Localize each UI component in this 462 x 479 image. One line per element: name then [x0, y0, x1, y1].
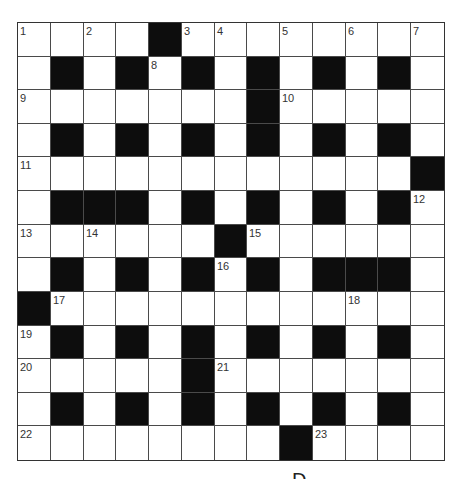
- grid-cell[interactable]: [313, 157, 346, 191]
- grid-cell[interactable]: 21: [215, 359, 247, 393]
- grid-cell[interactable]: [215, 326, 247, 359]
- grid-cell[interactable]: [149, 292, 182, 326]
- grid-cell[interactable]: [411, 258, 444, 292]
- grid-cell[interactable]: 10: [280, 90, 313, 124]
- grid-cell[interactable]: [280, 191, 313, 225]
- grid-cell[interactable]: [411, 393, 444, 426]
- grid-cell[interactable]: [411, 326, 444, 359]
- grid-cell[interactable]: [149, 157, 182, 191]
- grid-cell[interactable]: 20: [18, 359, 51, 393]
- grid-cell[interactable]: [280, 292, 313, 326]
- grid-cell[interactable]: [411, 90, 444, 124]
- grid-cell[interactable]: [313, 359, 346, 393]
- grid-cell[interactable]: 12: [411, 191, 444, 225]
- grid-cell[interactable]: [215, 57, 247, 90]
- grid-cell[interactable]: [51, 225, 84, 258]
- grid-cell[interactable]: [280, 57, 313, 90]
- grid-cell[interactable]: [378, 426, 411, 460]
- grid-cell[interactable]: [346, 426, 378, 460]
- grid-cell[interactable]: [149, 258, 182, 292]
- grid-cell[interactable]: 15: [247, 225, 280, 258]
- grid-cell[interactable]: 18: [346, 292, 378, 326]
- grid-cell[interactable]: 17: [51, 292, 84, 326]
- grid-cell[interactable]: [182, 426, 215, 460]
- grid-cell[interactable]: [280, 258, 313, 292]
- grid-cell[interactable]: [84, 393, 116, 426]
- grid-cell[interactable]: 7: [411, 23, 444, 57]
- grid-cell[interactable]: [411, 292, 444, 326]
- grid-cell[interactable]: 1: [18, 23, 51, 57]
- grid-cell[interactable]: [116, 225, 149, 258]
- grid-cell[interactable]: [149, 124, 182, 157]
- grid-cell[interactable]: [149, 326, 182, 359]
- grid-cell[interactable]: [149, 393, 182, 426]
- grid-cell[interactable]: [346, 90, 378, 124]
- grid-cell[interactable]: [215, 393, 247, 426]
- grid-cell[interactable]: 2: [84, 23, 116, 57]
- grid-cell[interactable]: 5: [280, 23, 313, 57]
- grid-cell[interactable]: [280, 326, 313, 359]
- grid-cell[interactable]: [149, 359, 182, 393]
- grid-cell[interactable]: [149, 191, 182, 225]
- grid-cell[interactable]: [313, 23, 346, 57]
- grid-cell[interactable]: [411, 124, 444, 157]
- grid-cell[interactable]: [84, 57, 116, 90]
- grid-cell[interactable]: [247, 426, 280, 460]
- grid-cell[interactable]: [51, 23, 84, 57]
- grid-cell[interactable]: [215, 292, 247, 326]
- grid-cell[interactable]: [116, 23, 149, 57]
- grid-cell[interactable]: [215, 191, 247, 225]
- grid-cell[interactable]: [346, 191, 378, 225]
- grid-cell[interactable]: [378, 225, 411, 258]
- grid-cell[interactable]: [84, 326, 116, 359]
- grid-cell[interactable]: 16: [215, 258, 247, 292]
- grid-cell[interactable]: [84, 359, 116, 393]
- grid-cell[interactable]: [18, 393, 51, 426]
- grid-cell[interactable]: [84, 124, 116, 157]
- grid-cell[interactable]: [411, 359, 444, 393]
- grid-cell[interactable]: [247, 157, 280, 191]
- grid-cell[interactable]: [346, 393, 378, 426]
- grid-cell[interactable]: [346, 225, 378, 258]
- grid-cell[interactable]: [51, 426, 84, 460]
- grid-cell[interactable]: [18, 57, 51, 90]
- grid-cell[interactable]: [215, 426, 247, 460]
- grid-cell[interactable]: [215, 157, 247, 191]
- grid-cell[interactable]: 14: [84, 225, 116, 258]
- grid-cell[interactable]: 9: [18, 90, 51, 124]
- grid-cell[interactable]: [313, 225, 346, 258]
- grid-cell[interactable]: [378, 157, 411, 191]
- grid-cell[interactable]: 4: [215, 23, 247, 57]
- grid-cell[interactable]: [182, 292, 215, 326]
- grid-cell[interactable]: [378, 292, 411, 326]
- grid-cell[interactable]: [280, 225, 313, 258]
- grid-cell[interactable]: [149, 225, 182, 258]
- grid-cell[interactable]: [116, 292, 149, 326]
- grid-cell[interactable]: [84, 292, 116, 326]
- grid-cell[interactable]: 23: [313, 426, 346, 460]
- grid-cell[interactable]: [116, 359, 149, 393]
- grid-cell[interactable]: [313, 90, 346, 124]
- grid-cell[interactable]: [247, 23, 280, 57]
- grid-cell[interactable]: [18, 124, 51, 157]
- grid-cell[interactable]: [84, 426, 116, 460]
- grid-cell[interactable]: [116, 157, 149, 191]
- grid-cell[interactable]: [280, 393, 313, 426]
- grid-cell[interactable]: [18, 191, 51, 225]
- grid-cell[interactable]: 11: [18, 157, 51, 191]
- grid-cell[interactable]: [411, 225, 444, 258]
- grid-cell[interactable]: 3: [182, 23, 215, 57]
- grid-cell[interactable]: [346, 359, 378, 393]
- grid-cell[interactable]: [149, 426, 182, 460]
- grid-cell[interactable]: 13: [18, 225, 51, 258]
- grid-cell[interactable]: [51, 157, 84, 191]
- grid-cell[interactable]: [116, 426, 149, 460]
- grid-cell[interactable]: [215, 90, 247, 124]
- grid-cell[interactable]: [346, 57, 378, 90]
- grid-cell[interactable]: [51, 90, 84, 124]
- grid-cell[interactable]: [346, 326, 378, 359]
- grid-cell[interactable]: [116, 90, 149, 124]
- grid-cell[interactable]: [346, 157, 378, 191]
- grid-cell[interactable]: [313, 292, 346, 326]
- grid-cell[interactable]: [84, 258, 116, 292]
